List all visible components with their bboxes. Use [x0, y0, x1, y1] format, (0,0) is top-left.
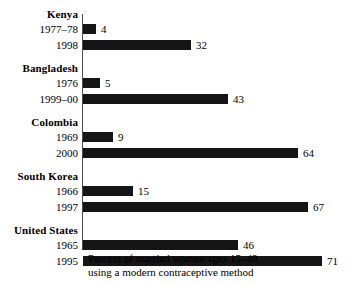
bar [83, 78, 100, 88]
bar-value-label: 15 [138, 185, 149, 197]
bar [83, 202, 308, 212]
bar [83, 240, 238, 250]
bar-row: 199832 [0, 38, 355, 54]
bar-row: 19765 [0, 76, 355, 92]
bar [83, 148, 298, 158]
row-period-label: 2000 [0, 147, 78, 159]
bar-row: 1999–0043 [0, 92, 355, 108]
bar [83, 24, 96, 34]
group-header-label: South Korea [0, 170, 78, 182]
row-period-label: 1969 [0, 131, 78, 143]
row-period-label: 1998 [0, 39, 78, 51]
bar-value-label: 64 [303, 147, 314, 159]
plot-area: Kenya1977–784199832Bangladesh197651999–0… [0, 0, 355, 248]
bar [83, 40, 191, 50]
contraceptive-use-bar-chart: Kenya1977–784199832Bangladesh197651999–0… [0, 0, 355, 285]
bar-row: 196615 [0, 184, 355, 200]
chart-caption: Percent of married women ages 15–49 usin… [88, 251, 338, 279]
group-header-label: Bangladesh [0, 62, 78, 74]
row-period-label: 1999–00 [0, 93, 78, 105]
bar [83, 186, 133, 196]
bar-value-label: 5 [105, 77, 111, 89]
bar-row: 199767 [0, 200, 355, 216]
group-header-label: United States [0, 224, 78, 236]
bar-row: 1977–784 [0, 22, 355, 38]
bar-value-label: 46 [243, 239, 254, 251]
group-header-label: Kenya [0, 8, 78, 20]
bar [83, 132, 113, 142]
bar [83, 94, 228, 104]
row-period-label: 1966 [0, 185, 78, 197]
caption-line-1: Percent of married women ages 15–49 [88, 251, 338, 265]
row-period-label: 1976 [0, 77, 78, 89]
bar-value-label: 4 [101, 23, 107, 35]
row-period-label: 1965 [0, 239, 78, 251]
bar-row: 19699 [0, 130, 355, 146]
bar-value-label: 67 [313, 201, 324, 213]
group-header-label: Colombia [0, 116, 78, 128]
row-period-label: 1995 [0, 255, 78, 267]
bar-row: 200064 [0, 146, 355, 162]
row-period-label: 1977–78 [0, 23, 78, 35]
row-period-label: 1997 [0, 201, 78, 213]
bar-value-label: 9 [118, 131, 124, 143]
bar-value-label: 43 [233, 93, 244, 105]
caption-line-2: using a modern contraceptive method [88, 265, 338, 279]
bar-value-label: 32 [196, 39, 207, 51]
